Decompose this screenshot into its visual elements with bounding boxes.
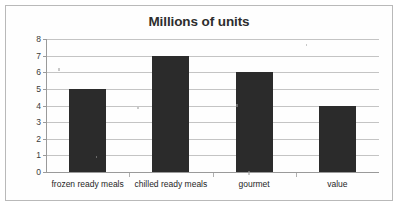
scan-artifact [96, 156, 97, 158]
scan-artifact [248, 171, 250, 175]
y-axis-tick-label: 3 [36, 117, 41, 127]
scan-artifact [137, 107, 139, 109]
bar [152, 56, 189, 172]
scan-artifact [58, 68, 60, 71]
scan-artifact [236, 104, 238, 107]
x-axis-tick-mark [129, 173, 130, 177]
bar [236, 72, 273, 172]
x-axis-tick-mark [296, 173, 297, 177]
chart-frame: Millions of units 012345678 frozen ready… [5, 5, 393, 201]
bar [69, 89, 106, 172]
y-axis-tick-label: 7 [36, 51, 41, 61]
x-axis-category-label: chilled ready meals [129, 179, 212, 189]
y-axis-tick-label: 4 [36, 101, 41, 111]
y-axis-tick-label: 8 [36, 34, 41, 44]
y-axis-tick-label: 0 [36, 167, 41, 177]
y-axis-tick-label: 6 [36, 67, 41, 77]
x-axis-category-label: frozen ready meals [46, 179, 129, 189]
bar [319, 106, 356, 173]
y-axis-tick-label: 2 [36, 134, 41, 144]
x-axis-tick-marks [46, 173, 379, 177]
scan-artifact [306, 44, 307, 46]
plot-area: 012345678 [46, 39, 379, 173]
x-axis-category-label: gourmet [213, 179, 296, 189]
x-axis-category-label: value [296, 179, 379, 189]
chart-title: Millions of units [6, 14, 392, 29]
y-axis-tick-label: 1 [36, 150, 41, 160]
bars-layer [46, 39, 379, 173]
y-axis-tick-label: 5 [36, 84, 41, 94]
x-axis-tick-mark [213, 173, 214, 177]
x-axis-category-labels: frozen ready mealschilled ready mealsgou… [46, 179, 379, 189]
